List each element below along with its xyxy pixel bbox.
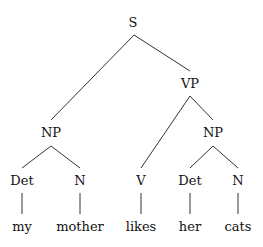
tree-node-n2: N (232, 173, 243, 188)
tree-node-w2: mother (56, 219, 104, 234)
tree-edge (51, 146, 80, 168)
tree-edge (134, 35, 190, 71)
tree-node-w3: likes (126, 219, 157, 234)
tree-node-v: V (135, 173, 146, 188)
tree-edge (190, 96, 213, 120)
tree-node-np2: NP (203, 125, 223, 140)
tree-node-w5: cats (225, 219, 252, 234)
tree-edge (190, 146, 213, 168)
tree-node-vp: VP (180, 76, 199, 91)
tree-node-w4: her (179, 219, 202, 234)
tree-node-n1: N (74, 173, 85, 188)
tree-node-np1: NP (41, 125, 61, 140)
tree-node-w1: my (12, 219, 32, 234)
tree-edge (213, 146, 238, 168)
tree-node-det1: Det (10, 173, 34, 188)
tree-edge (51, 35, 134, 120)
tree-node-det2: Det (178, 173, 202, 188)
tree-edge (141, 96, 190, 168)
tree-nodes: SVPNPNPDetNVDetNmymotherlikeshercats (10, 15, 251, 234)
tree-node-s: S (129, 15, 138, 30)
syntax-tree-diagram: SVPNPNPDetNVDetNmymotherlikeshercats (0, 0, 263, 247)
tree-edge (22, 146, 51, 168)
